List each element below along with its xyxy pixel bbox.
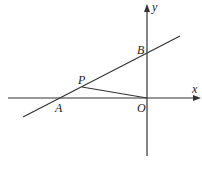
segment-po (82, 87, 147, 98)
y-axis (144, 4, 150, 156)
x-axis-label: x (191, 82, 198, 96)
line-ab (23, 36, 180, 117)
coordinate-diagram: y x O A B P (0, 0, 202, 173)
point-a-label: A (54, 101, 63, 115)
point-b-label: B (137, 43, 145, 57)
y-axis-label: y (151, 0, 158, 14)
x-axis (8, 95, 201, 101)
point-p-label: P (77, 73, 86, 87)
origin-label: O (137, 101, 146, 115)
y-axis-arrow-icon (144, 4, 150, 12)
